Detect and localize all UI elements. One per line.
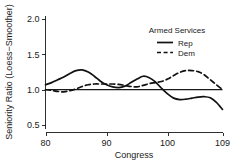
y-axis-title: Seniority Ratio (Loess−Smoother) bbox=[4, 4, 14, 139]
legend-label-rep: Rep bbox=[178, 39, 193, 48]
y-tick-label: 0.5 bbox=[27, 120, 40, 130]
y-tick-label: 1.0 bbox=[27, 85, 40, 95]
legend-title: Armed Services bbox=[149, 26, 205, 35]
chart-figure: 0.51.01.52.0 Seniority Ratio (Loess−Smoo… bbox=[0, 0, 237, 167]
x-tick-label: 109 bbox=[215, 138, 230, 148]
x-tick-label: 80 bbox=[40, 138, 50, 148]
seniority-ratio-line-chart: 0.51.01.52.0 Seniority Ratio (Loess−Smoo… bbox=[0, 0, 237, 167]
x-axis-title: Congress bbox=[115, 150, 154, 160]
y-tick-label: 2.0 bbox=[27, 14, 40, 24]
y-tick-label: 1.5 bbox=[27, 50, 40, 60]
x-tick-label: 100 bbox=[160, 138, 175, 148]
legend-label-dem: Dem bbox=[178, 49, 195, 58]
x-tick-label: 90 bbox=[102, 138, 112, 148]
